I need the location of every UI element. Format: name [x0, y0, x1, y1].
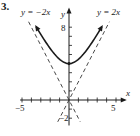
tick-label-8: 8 [61, 23, 66, 33]
asymptote-line [58, 22, 110, 122]
vertex-point [67, 62, 70, 65]
asymptote-label-right: y = 2x [96, 7, 120, 17]
y-axis-label: y [60, 9, 65, 19]
y-axis-arrow-icon [67, 8, 72, 14]
tick-label-neg5: −5 [15, 103, 25, 113]
asymptote-label-left: y = −2x [20, 7, 50, 17]
tick-label-5: 5 [111, 103, 116, 113]
x-axis-arrow-icon [121, 98, 127, 103]
plot: x y −5 5 8 −2 y = −2x y = 2x [0, 0, 140, 136]
x-axis-label: x [125, 88, 130, 98]
tick-label-neg2: −2 [59, 113, 69, 123]
asymptote-line [29, 22, 81, 122]
